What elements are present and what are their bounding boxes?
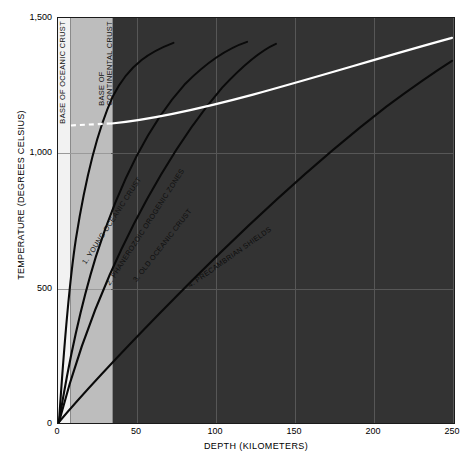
x-tick-label-0: 0 — [54, 426, 59, 436]
x-tick-label-50: 50 — [131, 426, 141, 436]
y-tick-label-0: 0 — [0, 418, 52, 428]
geotherm-chart-figure: TEMPERATURE (DEGREES CELSIUS) 1,500 1,00… — [0, 0, 467, 456]
curves-svg — [58, 18, 454, 423]
y-axis-title: TEMPERATURE (DEGREES CELSIUS) — [16, 95, 26, 295]
x-tick-label-150: 150 — [286, 426, 301, 436]
plot-area: BASE OF OCEANIC CRUST BASE OFCONTINENTAL… — [57, 17, 455, 424]
y-tick-label-500: 500 — [0, 283, 52, 293]
y-tick-label-1000: 1,000 — [0, 147, 52, 157]
curve-phanerozoic-orogenic-zones — [59, 42, 247, 422]
curve-mantle-solidus-dashed — [71, 123, 112, 125]
y-tick-label-1500: 1,500 — [0, 12, 52, 22]
x-tick-label-100: 100 — [207, 426, 222, 436]
x-tick-label-250: 250 — [444, 426, 459, 436]
x-axis-title: DEPTH (KILOMETERS) — [57, 441, 455, 451]
x-tick-label-200: 200 — [365, 426, 380, 436]
